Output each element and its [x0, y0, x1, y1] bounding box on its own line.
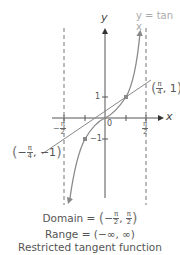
domain-label: Domain = (−π2, π2) [0, 210, 180, 226]
point-label-neg-pi4-neg1: (−π4, −1) [12, 144, 62, 160]
y: −1 [40, 146, 56, 159]
den: 2 [142, 129, 148, 136]
x-axis-label: x [166, 110, 173, 123]
function-label: y = tan x [136, 10, 180, 32]
sign: − [53, 124, 60, 133]
y: 1 [170, 82, 177, 95]
y-axis-label: y [101, 11, 108, 24]
x-tick-neg-pi-2: −π2 [53, 121, 66, 136]
range-label: Range = (−∞, ∞) [0, 228, 180, 240]
sign: − [104, 212, 113, 224]
x-tick-pi-2: π2 [142, 121, 148, 136]
y-tick-1: 1 [95, 92, 100, 101]
sign: − [17, 146, 26, 159]
origin-label: 0 [107, 119, 112, 128]
y-tick-neg1: −1 [90, 134, 102, 143]
point-pi4-1 [124, 95, 128, 99]
den: 2 [60, 129, 66, 136]
point-neg-pi4-neg1 [83, 137, 87, 141]
domain-prefix: Domain = [42, 212, 98, 224]
diagram-title: Restricted tangent function [0, 241, 180, 253]
point-label-pi4-1: (π4, 1) [151, 80, 180, 96]
